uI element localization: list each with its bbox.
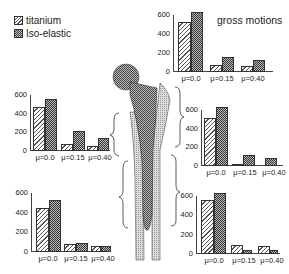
bar-iso-elastic — [49, 200, 61, 252]
y-tick: 0 — [178, 162, 198, 170]
bar-titanium — [91, 246, 101, 252]
x-tick: μ=0.40 — [257, 168, 289, 177]
bar-titanium — [87, 146, 98, 151]
y-tick: 200 — [8, 228, 28, 236]
bar-iso-elastic — [270, 250, 278, 254]
bar-titanium — [231, 245, 243, 254]
bar-titanium — [178, 22, 191, 72]
bar-iso-elastic — [222, 57, 234, 72]
bar-iso-elastic — [216, 107, 228, 166]
y-tick: 0 — [150, 68, 170, 76]
y-tick: 600 — [173, 192, 193, 200]
chart-middle-left: 0 200 400 600 μ=0.0 μ=0.15 μ=0.40 — [30, 95, 110, 151]
chart-bottom-right: 0 200 400 600 μ=0.0 μ=0.15 μ=0.40 — [196, 196, 280, 254]
y-tick: 600 — [178, 106, 198, 114]
y-tick: 400 — [178, 125, 198, 133]
y-tick: 400 — [7, 110, 27, 118]
bar-titanium — [61, 144, 73, 151]
y-tick: 600 — [150, 11, 170, 19]
bar-titanium — [258, 246, 270, 254]
x-tick: μ=0.40 — [83, 153, 117, 162]
y-tick: 400 — [150, 30, 170, 38]
bar-iso-elastic — [191, 12, 203, 72]
x-tick: μ=0.40 — [236, 74, 270, 83]
bar-iso-elastic — [98, 138, 109, 151]
bar-iso-elastic — [214, 193, 226, 254]
bar-titanium — [204, 118, 216, 166]
bar-iso-elastic — [101, 246, 111, 252]
bar-iso-elastic — [243, 155, 255, 166]
bar-iso-elastic — [73, 131, 85, 151]
chart-top-right: 0 200 400 600 μ=0.0 μ=0.15 μ=0.40 — [173, 15, 273, 72]
x-tick: μ=0.0 — [174, 74, 208, 83]
y-axis — [31, 193, 32, 252]
bar-iso-elastic — [253, 60, 265, 72]
y-tick: 200 — [173, 231, 193, 239]
y-tick: 200 — [178, 143, 198, 151]
bar-titanium — [232, 164, 243, 166]
y-tick: 400 — [8, 209, 28, 217]
y-tick: 0 — [8, 248, 28, 256]
bar-titanium — [33, 107, 45, 151]
x-tick: μ=0.40 — [255, 256, 289, 265]
y-axis — [196, 196, 197, 254]
bar-iso-elastic — [45, 99, 57, 151]
y-axis — [201, 110, 202, 166]
bar-titanium — [64, 244, 76, 252]
x-tick: μ=0.40 — [86, 254, 120, 263]
y-tick: 0 — [173, 250, 193, 258]
chart-middle-right: 0 200 400 600 μ=0.0 μ=0.15 μ=0.40 — [201, 110, 283, 166]
y-axis — [30, 95, 31, 151]
y-tick: 400 — [173, 211, 193, 219]
bar-titanium — [201, 200, 214, 254]
bar-iso-elastic — [265, 158, 277, 166]
bar-iso-elastic — [76, 243, 88, 252]
bar-titanium — [241, 66, 253, 72]
y-tick: 200 — [7, 128, 27, 136]
bar-titanium — [210, 65, 222, 72]
y-tick: 0 — [7, 147, 27, 155]
y-axis — [173, 15, 174, 72]
y-tick: 600 — [7, 91, 27, 99]
y-tick: 600 — [8, 189, 28, 197]
chart-bottom-left: 0 200 400 600 μ=0.0 μ=0.15 μ=0.40 — [31, 193, 111, 252]
y-tick: 200 — [150, 49, 170, 57]
bar-titanium — [36, 208, 49, 252]
x-tick: μ=0.0 — [197, 256, 231, 265]
bar-iso-elastic — [243, 250, 252, 254]
x-tick: μ=0.15 — [205, 74, 239, 83]
